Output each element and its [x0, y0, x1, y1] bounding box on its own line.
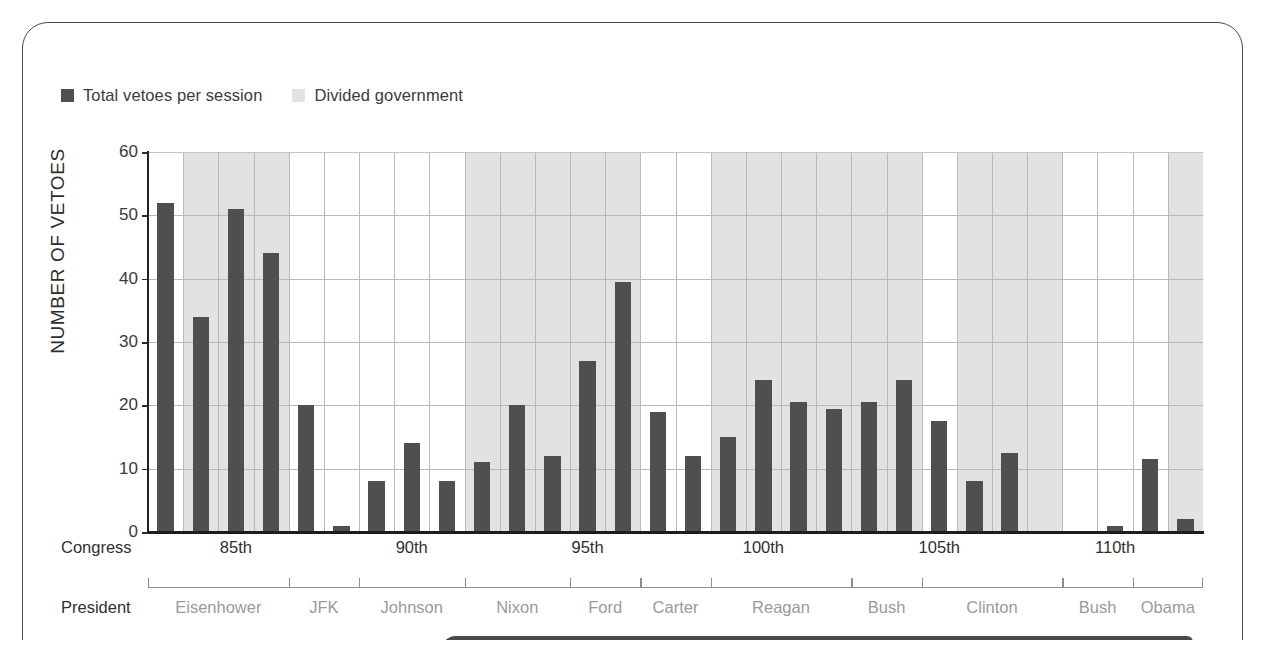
- president-label: Nixon: [496, 598, 538, 617]
- president-axis-tick: [922, 578, 923, 588]
- bar: [579, 361, 595, 532]
- bar: [685, 456, 701, 532]
- president-label: Bush: [868, 598, 906, 617]
- president-label: Obama: [1141, 598, 1195, 617]
- congress-label: 100th: [743, 538, 784, 557]
- president-label: Carter: [653, 598, 699, 617]
- legend-item-total-vetoes: Total vetoes per session: [61, 86, 262, 105]
- president-axis-tick: [640, 578, 641, 588]
- bar: [298, 405, 314, 532]
- president-axis-tick: [359, 578, 360, 588]
- y-axis-tick-label: 10: [119, 459, 138, 479]
- president-axis-tick: [1133, 578, 1134, 588]
- bar: [263, 253, 279, 532]
- president-caption: President: [61, 598, 131, 617]
- bar: [896, 380, 912, 532]
- y-axis-tick-mark: [142, 215, 148, 217]
- president-axis-bracket: [148, 578, 1203, 588]
- x-axis-line: [147, 531, 1204, 534]
- president-label: Clinton: [966, 598, 1017, 617]
- president-axis-tick: [711, 578, 712, 588]
- y-axis-tick-mark: [142, 469, 148, 471]
- congress-caption: Congress: [61, 538, 132, 557]
- legend-swatch-light-icon: [292, 89, 305, 102]
- bar: [720, 437, 736, 532]
- bar: [474, 462, 490, 532]
- frame-bottom-mask: [0, 640, 1267, 669]
- legend-item-divided-government: Divided government: [292, 86, 463, 105]
- congress-label: 110th: [1095, 538, 1135, 557]
- bar: [404, 443, 420, 532]
- legend-swatch-dark-icon: [61, 89, 74, 102]
- congress-label: 105th: [919, 538, 960, 557]
- congress-label: 95th: [572, 538, 604, 557]
- president-label: Johnson: [381, 598, 443, 617]
- president-axis-tick: [289, 578, 290, 588]
- president-axis-tick: [148, 578, 149, 588]
- y-axis-tick-label: 40: [119, 269, 138, 289]
- bar: [650, 412, 666, 532]
- bar: [861, 402, 877, 532]
- bar: [615, 282, 631, 532]
- y-axis-title: NUMBER OF VETOES: [47, 131, 69, 371]
- legend-label-divided-government: Divided government: [314, 86, 463, 105]
- president-label: Reagan: [752, 598, 810, 617]
- bar: [368, 481, 384, 532]
- president-label: Bush: [1079, 598, 1117, 617]
- bar: [193, 317, 209, 532]
- legend-label-total-vetoes: Total vetoes per session: [83, 86, 262, 105]
- y-axis-tick-mark: [142, 405, 148, 407]
- president-axis-rule: [148, 587, 1203, 588]
- y-axis-tick-mark: [142, 152, 148, 154]
- president-axis-tick: [465, 578, 466, 588]
- bar: [931, 421, 947, 532]
- y-axis-labels: 0102030405060: [92, 152, 138, 532]
- bar: [826, 409, 842, 533]
- bar-series-total-vetoes: [148, 152, 1203, 532]
- y-axis-tick-label: 20: [119, 395, 138, 415]
- y-axis-tick-label: 30: [119, 332, 138, 352]
- president-label: Eisenhower: [175, 598, 261, 617]
- chart-legend: Total vetoes per session Divided governm…: [61, 86, 463, 105]
- bar: [790, 402, 806, 532]
- y-axis-tick-label: 60: [119, 142, 138, 162]
- president-axis-tick: [851, 578, 852, 588]
- bar: [1142, 459, 1158, 532]
- y-axis-tick-mark: [142, 532, 148, 534]
- bar: [509, 405, 525, 532]
- bar: [1001, 453, 1017, 532]
- bar: [228, 209, 244, 532]
- president-axis-tick: [1202, 578, 1203, 588]
- congress-axis-row: Congress 85th90th95th100th105th110th: [0, 538, 1267, 562]
- y-axis-tick-label: 50: [119, 205, 138, 225]
- bar: [966, 481, 982, 532]
- y-axis-tick-mark: [142, 279, 148, 281]
- congress-label: 85th: [220, 538, 252, 557]
- y-axis-tick-mark: [142, 342, 148, 344]
- president-axis-row: President EisenhowerJFKJohnsonNixonFordC…: [0, 598, 1267, 624]
- president-label: JFK: [309, 598, 338, 617]
- bar: [157, 203, 173, 532]
- congress-label: 90th: [396, 538, 428, 557]
- president-label: Ford: [588, 598, 622, 617]
- bar: [544, 456, 560, 532]
- bar: [755, 380, 771, 532]
- president-axis-tick: [570, 578, 571, 588]
- bar: [439, 481, 455, 532]
- president-axis-tick: [1062, 578, 1063, 588]
- chart-plot-area: [148, 152, 1203, 532]
